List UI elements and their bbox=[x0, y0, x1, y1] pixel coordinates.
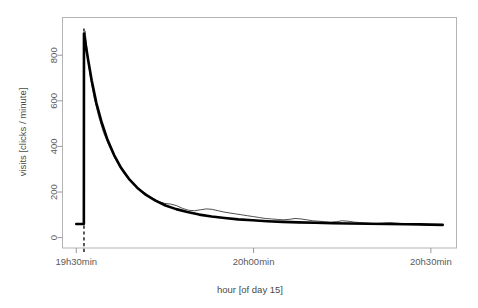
y-tick-label: 200 bbox=[48, 184, 59, 200]
series-measured-visits bbox=[76, 31, 442, 225]
y-axis-title: visits [clicks / minute] bbox=[17, 88, 28, 177]
x-tick-label: 20h00min bbox=[233, 256, 275, 267]
chart-container: 0200400600800 19h30min20h00min20h30min v… bbox=[0, 0, 478, 308]
plot-box-border bbox=[63, 18, 457, 249]
series-exponential-fit bbox=[76, 34, 442, 225]
x-tick-label: 20h30min bbox=[410, 256, 452, 267]
plot-frame bbox=[63, 18, 457, 249]
y-axis-tick-labels: 0200400600800 bbox=[48, 47, 59, 240]
y-tick-label: 600 bbox=[48, 93, 59, 109]
visits-over-time-line-chart: 0200400600800 19h30min20h00min20h30min v… bbox=[0, 0, 478, 308]
x-tick-label: 19h30min bbox=[55, 256, 97, 267]
y-tick-label: 0 bbox=[48, 235, 59, 240]
x-axis-tick-labels: 19h30min20h00min20h30min bbox=[55, 256, 451, 267]
x-axis-title: hour [of day 15] bbox=[217, 284, 283, 295]
x-axis-tickmarks bbox=[76, 248, 431, 253]
y-tick-label: 800 bbox=[48, 47, 59, 63]
y-tick-label: 400 bbox=[48, 138, 59, 154]
